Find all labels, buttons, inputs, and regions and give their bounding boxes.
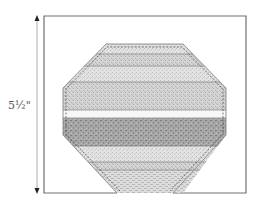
strip-5: [60, 110, 230, 118]
strip-4: [60, 82, 230, 110]
strip-9: [60, 170, 230, 194]
strip-8: [60, 162, 230, 170]
quilt-diagram: [0, 0, 259, 204]
strip-6: [60, 118, 230, 146]
strip-1: [60, 44, 230, 54]
dimension-arrow: [35, 15, 40, 194]
strip-2: [60, 54, 230, 66]
dimension-label: 5½": [8, 99, 31, 112]
strip-3: [60, 66, 230, 82]
